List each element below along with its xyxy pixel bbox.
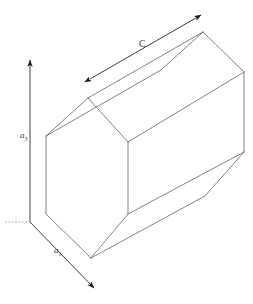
hexagonal-prism-body: [46, 32, 244, 258]
crystal-diagram-figure: a3 a1 C: [0, 0, 253, 304]
front-edge-upper-left: [46, 98, 88, 136]
crystal-drawing: [0, 0, 253, 304]
axis-c-group: [90, 15, 201, 79]
top-back-ridge-right: [203, 32, 244, 72]
top-ridge-edge: [88, 32, 203, 98]
axis-a1-line: [30, 222, 94, 288]
front-edge-upper-right: [88, 98, 128, 142]
front-edge-lower-right: [91, 214, 128, 258]
axis-a1-group: [30, 222, 94, 288]
front-hexagon-face: [46, 98, 128, 258]
front-edge-lower-left: [46, 214, 91, 258]
axis-label-a1-subscript: 1: [59, 251, 62, 257]
axis-c-line: [90, 15, 201, 79]
prism-right-face: [128, 72, 244, 214]
top-back-ridge-left: [161, 32, 203, 70]
axis-label-c: C: [139, 40, 145, 50]
top-right-slope-edge: [128, 72, 244, 142]
prism-bottom-facets: [91, 152, 244, 258]
axis-label-a3: a3: [20, 131, 28, 142]
bottom-ridge-edge: [91, 196, 205, 258]
right-face-lower-edge: [128, 152, 244, 214]
bottom-back-ridge-right: [205, 152, 244, 196]
axis-label-a1: a1: [54, 246, 62, 257]
top-left-slope-edge: [46, 70, 161, 136]
axis-label-a3-subscript: 3: [25, 136, 28, 142]
axis-label-c-base: C: [139, 39, 145, 49]
